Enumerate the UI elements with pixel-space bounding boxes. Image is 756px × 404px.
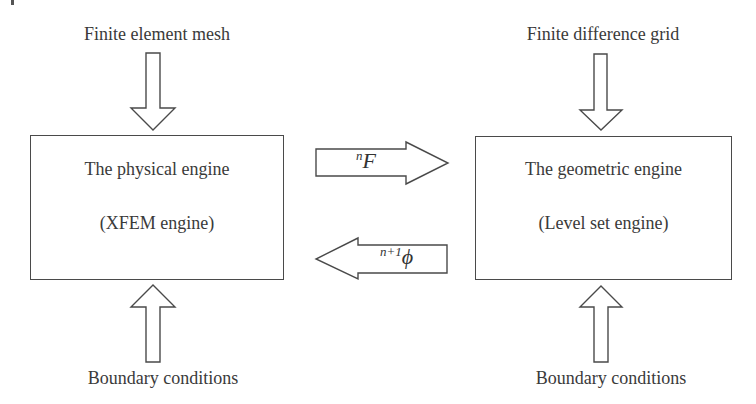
input-label-finite-difference-grid: Finite difference grid (486, 24, 720, 44)
input-label-finite-element-mesh: Finite element mesh (40, 24, 274, 44)
geometric-engine-subtitle: (Level set engine) (475, 213, 732, 233)
up-arrow-bc-to-physical (131, 285, 175, 362)
force-transfer-label: nF (356, 148, 376, 174)
xfem-level-set-coupling-diagram: Finite element mesh Finite difference gr… (0, 0, 756, 404)
physical-engine-title: The physical engine (30, 159, 284, 179)
force-symbol: F (363, 148, 376, 173)
physical-engine-subtitle: (XFEM engine) (30, 213, 284, 233)
levelset-symbol: ϕ (402, 244, 413, 269)
geometric-engine-box (475, 136, 732, 280)
force-superscript: n (356, 148, 363, 163)
physical-engine-box (30, 135, 284, 280)
right-arrow-force-transfer (316, 142, 448, 184)
input-label-boundary-conditions-left: Boundary conditions (46, 368, 280, 388)
input-label-boundary-conditions-right: Boundary conditions (494, 368, 728, 388)
down-arrow-mesh-to-physical (131, 53, 175, 130)
geometric-engine-title: The geometric engine (475, 159, 732, 179)
down-arrow-grid-to-geometric (580, 54, 622, 130)
levelset-transfer-label: n+1ϕ (380, 244, 413, 270)
levelset-superscript: n+1 (380, 244, 402, 259)
up-arrow-bc-to-geometric (580, 286, 622, 362)
